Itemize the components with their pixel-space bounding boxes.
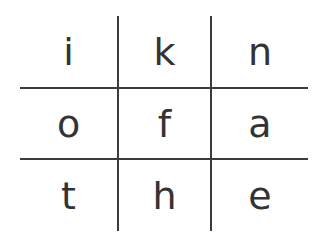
grid-cell-r2-c1: o <box>20 89 117 158</box>
grid-cell-r2-c2: f <box>119 89 210 158</box>
grid-cell-r2-c3: a <box>212 89 308 158</box>
grid-cell-r3-c2: h <box>119 160 210 231</box>
grid-cell-r3-c1: t <box>20 160 117 231</box>
grid-cell-r1-c3: n <box>212 16 308 87</box>
grid-cell-r1-c1: i <box>20 16 117 87</box>
grid-cell-r1-c2: k <box>119 16 210 87</box>
grid-cell-r3-c3: e <box>212 160 308 231</box>
